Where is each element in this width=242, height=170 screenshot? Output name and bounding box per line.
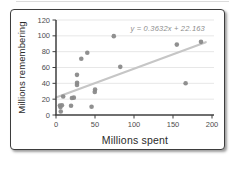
data-point: [75, 83, 80, 88]
x-tick-label: 100: [128, 120, 141, 129]
x-tick-label: 200: [206, 120, 219, 129]
x-tick-label: 50: [91, 120, 99, 129]
y-tick-label: 20: [42, 95, 50, 104]
data-point: [118, 65, 123, 70]
data-point: [69, 103, 74, 108]
crop-edge-artifact: [16, 1, 229, 2]
y-tick-label: 40: [42, 79, 50, 88]
y-tick-label: 100: [37, 31, 50, 40]
data-point: [89, 104, 94, 109]
data-point: [79, 56, 84, 61]
data-point: [60, 103, 65, 108]
data-point: [70, 96, 75, 101]
x-tick-label: 0: [54, 120, 58, 129]
data-point: [183, 81, 188, 86]
data-point: [111, 34, 116, 39]
chart-card: 020406080100120050100150200 Millions rem…: [10, 9, 225, 150]
data-point: [175, 42, 180, 47]
data-point: [199, 40, 204, 45]
data-point: [85, 50, 90, 55]
x-tick-label: 150: [167, 120, 180, 129]
trendline: [56, 42, 206, 97]
y-tick-label: 80: [42, 47, 50, 56]
y-tick-label: 0: [46, 111, 50, 120]
y-tick-label: 60: [42, 63, 50, 72]
x-axis-title: Millions spent: [56, 134, 214, 146]
data-point: [92, 90, 97, 95]
data-point: [75, 73, 80, 78]
data-point: [61, 94, 66, 99]
data-point: [58, 109, 63, 114]
y-tick-label: 120: [37, 16, 50, 25]
y-axis-title: Millions remembering: [15, 9, 28, 127]
trendline-equation: y = 0.3632x + 22.163: [131, 24, 205, 33]
